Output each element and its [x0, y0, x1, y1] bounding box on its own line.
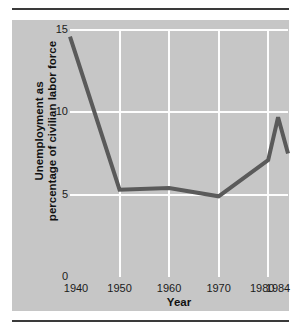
- y-tick-label-0: 0: [46, 271, 68, 282]
- x-tick-label-1960: 1960: [157, 282, 181, 294]
- chart-panel: 051015 194019501960197019801984 Year Une…: [12, 20, 289, 311]
- x-tick-label-1984: 1984: [266, 282, 290, 294]
- y-axis-title: Unemployment as percentage of civilian l…: [33, 21, 63, 241]
- x-axis-title: Year: [70, 296, 288, 308]
- x-tick-label-1950: 1950: [107, 282, 131, 294]
- bottom-rule: [12, 320, 289, 322]
- series-line-unemployment-rate: [70, 30, 288, 277]
- y-axis-title-line-2: percentage of civilian labor force: [46, 21, 59, 241]
- top-rule: [12, 8, 289, 10]
- y-axis-title-line-1: Unemployment as: [33, 21, 46, 241]
- x-tick-label-1940: 1940: [64, 282, 88, 294]
- data-line-unemployment-rate: [70, 37, 288, 197]
- plot-area: [70, 30, 288, 277]
- x-tick-label-1970: 1970: [206, 282, 230, 294]
- figure-container: 051015 194019501960197019801984 Year Une…: [0, 0, 301, 331]
